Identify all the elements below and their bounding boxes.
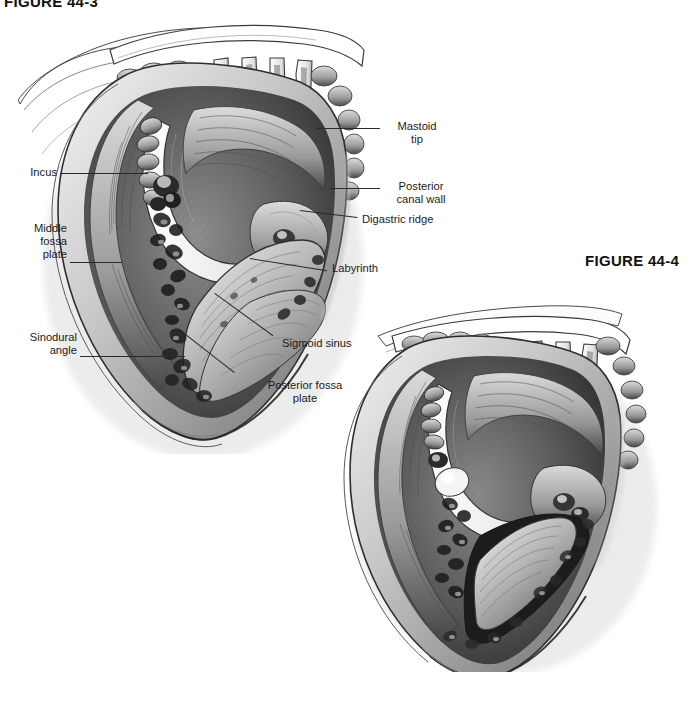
figure-caption-top-left: FIGURE 44-3 (4, 0, 98, 10)
label-middle-fossa-plate: Middle fossa plate (4, 222, 67, 262)
figure-caption-right: FIGURE 44-4 (585, 252, 679, 269)
label-mastoid-tip: Mastoid tip (385, 120, 449, 146)
label-posterior-canal-wall: Posterior canal wall (385, 180, 457, 206)
label-posterior-fossa-plate: Posterior fossa plate (250, 379, 360, 405)
label-sinodural-angle: Sinodural angle (4, 331, 77, 357)
label-labyrinth: Labyrinth (332, 262, 412, 275)
leader-line-mastoid-tip (316, 128, 380, 129)
leader-line-posterior-canal-wall (330, 188, 380, 189)
figure-page: FIGURE 44-3 FIGURE 44-4 Incus Middle fos… (0, 0, 696, 716)
mastoidectomy-illustration-secondary (330, 292, 690, 672)
label-digastric-ridge: Digastric ridge (362, 213, 472, 226)
leader-line-sinodural-angle (80, 356, 185, 357)
leader-line-incus (60, 173, 148, 174)
label-sigmoid-sinus: Sigmoid sinus (282, 337, 374, 350)
leader-line-middle-fossa-plate (70, 262, 122, 263)
label-incus: Incus (4, 166, 57, 179)
